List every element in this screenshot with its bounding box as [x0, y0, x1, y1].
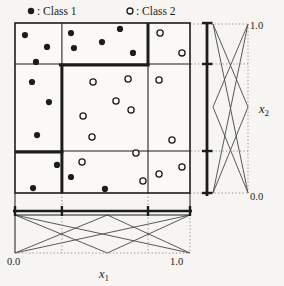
class2-open-circle-icon — [127, 8, 133, 14]
legend-class2-label: : Class 2 — [136, 5, 176, 17]
figure-canvas: : Class 1 : Class 2 1.0 0.0 x2 0.0 1.0 x… — [0, 0, 284, 286]
x2-max-label: 1.0 — [250, 20, 263, 31]
data-point — [125, 76, 131, 82]
data-point — [30, 185, 36, 191]
data-point — [117, 26, 123, 32]
legend-class1-label: : Class 1 — [37, 5, 77, 17]
data-point — [80, 113, 86, 119]
x1-max-label: 1.0 — [170, 256, 183, 267]
data-point — [34, 132, 40, 138]
data-point — [90, 79, 96, 85]
class1-filled-circle-icon — [28, 8, 34, 14]
data-point — [113, 98, 119, 104]
x2-min-label: 0.0 — [250, 191, 263, 202]
data-point — [133, 150, 139, 156]
data-point — [102, 186, 108, 192]
data-point — [44, 44, 50, 50]
data-point — [29, 79, 35, 85]
data-point — [68, 30, 74, 36]
data-point — [128, 107, 134, 113]
data-point — [46, 99, 52, 105]
data-point — [89, 134, 95, 140]
data-point — [169, 137, 175, 143]
fuzzy-partition-figure: : Class 1 : Class 2 1.0 0.0 x2 0.0 1.0 x… — [0, 0, 284, 286]
data-point — [130, 50, 136, 56]
data-point — [140, 178, 146, 184]
data-point — [33, 59, 39, 65]
data-point — [99, 39, 105, 45]
data-point — [179, 50, 185, 56]
data-point — [156, 77, 162, 83]
partition-grid — [15, 23, 190, 193]
data-point — [68, 174, 74, 180]
data-point — [179, 164, 185, 170]
data-point — [54, 162, 60, 168]
data-point — [157, 30, 163, 36]
data-point — [156, 171, 162, 177]
data-point — [79, 159, 85, 165]
data-point — [22, 32, 28, 38]
data-point — [71, 45, 77, 51]
x1-min-label: 0.0 — [7, 256, 20, 267]
